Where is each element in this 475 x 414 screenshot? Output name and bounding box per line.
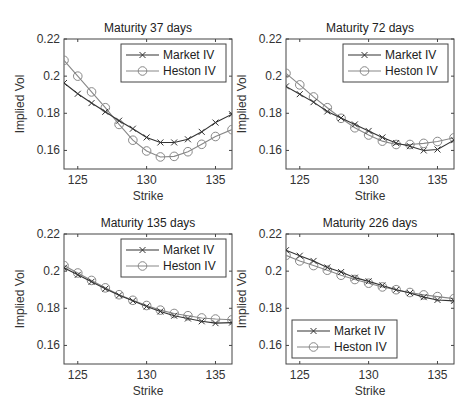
subplot-1: Maturity 37 days1251301350.160.180.20.22… [13,21,236,203]
x-tick-label: 130 [137,368,157,382]
chart-title: Maturity 72 days [326,21,414,35]
x-axis-label: Strike [133,189,164,203]
x-tick-label: 125 [68,368,88,382]
subplot-3: Maturity 135 days1251301350.160.180.20.2… [13,216,236,398]
legend-label: Market IV [334,324,385,338]
legend: Market IVHeston IV [343,44,448,82]
y-tick-label: 0.16 [259,338,283,352]
x-tick-label: 125 [290,368,310,382]
x-tick-label: 125 [290,173,310,187]
y-axis-label: Implied Vol [13,75,27,134]
chart-title: Maturity 226 days [323,216,418,230]
y-tick-label: 0.22 [259,32,283,46]
y-tick-label: 0.22 [37,227,61,241]
y-tick-label: 0.2 [43,69,60,83]
chart-title: Maturity 37 days [104,21,192,35]
y-tick-label: 0.2 [265,69,282,83]
x-tick-label: 135 [205,173,225,187]
y-tick-label: 0.18 [37,301,61,315]
x-axis-label: Strike [133,384,164,398]
x-tick-label: 135 [205,368,225,382]
y-tick-label: 0.22 [259,227,283,241]
legend: Market IVHeston IV [121,44,226,82]
subplot-4: Maturity 226 days1251301350.160.180.20.2… [235,216,458,398]
x-tick-label: 135 [427,368,447,382]
legend-label: Market IV [163,48,214,62]
y-axis-label: Implied Vol [235,75,249,134]
y-tick-label: 0.22 [37,32,61,46]
legend-label: Heston IV [163,64,216,78]
y-tick-label: 0.18 [37,106,61,120]
x-tick-label: 135 [427,173,447,187]
x-tick-label: 130 [359,173,379,187]
y-tick-label: 0.18 [259,301,283,315]
legend-label: Heston IV [163,259,216,273]
y-axis-label: Implied Vol [235,270,249,329]
subplot-2: Maturity 72 days1251301350.160.180.20.22… [235,21,458,203]
y-tick-label: 0.18 [259,106,283,120]
legend-label: Heston IV [385,64,438,78]
y-tick-label: 0.16 [37,143,61,157]
legend-label: Market IV [163,243,214,257]
x-axis-label: Strike [355,384,386,398]
y-tick-label: 0.2 [43,264,60,278]
x-tick-label: 130 [359,368,379,382]
legend: Market IVHeston IV [292,320,397,358]
legend: Market IVHeston IV [121,239,226,277]
legend-label: Market IV [385,48,436,62]
figure: Maturity 37 days1251301350.160.180.20.22… [0,0,475,414]
chart-title: Maturity 135 days [101,216,196,230]
x-tick-label: 130 [137,173,157,187]
y-tick-label: 0.16 [37,338,61,352]
x-axis-label: Strike [355,189,386,203]
y-axis-label: Implied Vol [13,270,27,329]
legend-label: Heston IV [334,340,387,354]
y-tick-label: 0.16 [259,143,283,157]
y-tick-label: 0.2 [265,264,282,278]
x-tick-label: 125 [68,173,88,187]
